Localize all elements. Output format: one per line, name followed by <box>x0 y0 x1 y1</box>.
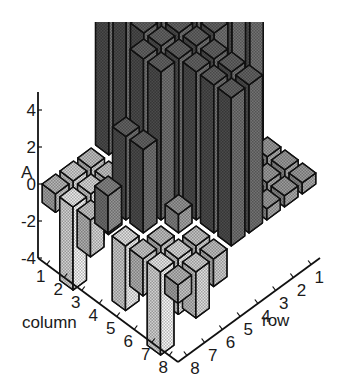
column-tick <box>47 261 50 265</box>
bar <box>130 130 157 233</box>
z-tick-label: 2 <box>27 138 36 157</box>
row-axis-label: row <box>262 311 290 330</box>
row-tick <box>273 287 276 291</box>
bar-face-left-texture <box>218 88 231 246</box>
row-tick-label: 2 <box>297 281 306 300</box>
row-tick-label: 8 <box>190 359 199 378</box>
row-tick <box>237 313 240 317</box>
bar-face-right-texture <box>231 88 245 246</box>
column-tick-label: 2 <box>54 280 63 299</box>
top-clip <box>0 0 338 22</box>
bar-face-right-texture <box>161 62 175 220</box>
bar-face-left-texture <box>130 140 143 233</box>
bar <box>147 252 174 355</box>
column-tick <box>99 300 102 304</box>
row-tick <box>308 261 311 265</box>
row-tick <box>255 300 258 304</box>
bar-face-left-texture <box>183 62 196 220</box>
column-tick-label: 1 <box>36 267 45 286</box>
bar-face-right-texture <box>249 75 263 233</box>
column-tick-label: 3 <box>71 293 80 312</box>
bar-face-left-texture <box>201 75 214 233</box>
column-axis-label: column <box>22 313 77 332</box>
bar <box>95 176 122 233</box>
column-tick-label: 8 <box>159 358 168 377</box>
column-tick-label: 4 <box>89 306 98 325</box>
column-tick-label: 7 <box>141 345 150 364</box>
column-tick <box>82 287 85 291</box>
row-tick-label: 6 <box>226 333 235 352</box>
bar3d-chart: 420-2-4 12345678 12345678 A column row <box>0 0 338 386</box>
column-tick-label: 6 <box>124 332 133 351</box>
bar-face-left-texture <box>96 0 109 155</box>
row-tick-label: 7 <box>208 346 217 365</box>
row-tick <box>202 339 205 343</box>
row-tick <box>290 274 293 278</box>
column-tick <box>134 326 137 330</box>
column-tick-label: 5 <box>106 319 115 338</box>
bar-face-right-texture <box>143 140 157 233</box>
bar-face-left-texture <box>112 236 125 311</box>
z-tick-label: 4 <box>27 101 36 120</box>
row-tick-label: 1 <box>314 268 323 287</box>
column-tick <box>117 313 120 317</box>
row-tick <box>219 326 222 330</box>
z-tick-label: -4 <box>21 249 36 268</box>
column-tick <box>169 352 172 356</box>
bar <box>218 78 245 246</box>
row-tick-label: 5 <box>243 320 252 339</box>
z-axis-label: A <box>21 163 33 182</box>
row-tick-label: 3 <box>279 294 288 313</box>
z-tick-label: -2 <box>21 212 36 231</box>
row-tick <box>184 352 187 356</box>
